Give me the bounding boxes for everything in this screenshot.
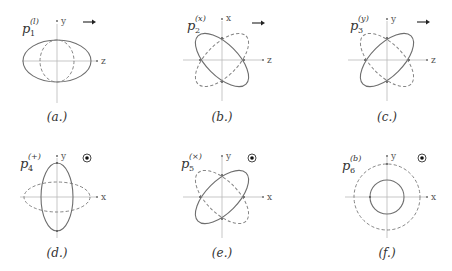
horizontal-axis-label: x <box>101 192 106 202</box>
mode-subscript: 3 <box>358 26 363 35</box>
axis-tip-icon <box>426 59 428 61</box>
panel-caption: (c.) <box>377 110 397 124</box>
crossing-point <box>199 59 201 61</box>
panel-caption: (d.) <box>47 246 68 260</box>
mode-superscript: (×) <box>189 152 202 161</box>
panel-caption: (e.) <box>212 246 233 260</box>
axis-tip-icon <box>426 196 428 198</box>
vertical-axis-label: y <box>60 16 67 26</box>
crossing-point <box>221 218 223 220</box>
mode-subscript: 5 <box>189 164 194 173</box>
mode-superscript: (+) <box>28 152 41 161</box>
axis-tip-icon <box>96 196 98 198</box>
mode-superscript: (x) <box>195 14 206 23</box>
arrow-right-icon <box>252 21 265 26</box>
out-of-page-icon <box>83 154 91 162</box>
panel-e: y x p 5 (×) (e.) <box>181 151 272 260</box>
crossing-point <box>243 59 245 61</box>
horizontal-axis-label: z <box>431 55 436 65</box>
crossing-point <box>199 196 201 198</box>
axis-tip-icon <box>221 155 223 157</box>
panel-a: y z p 1 (l) (a.) <box>22 16 106 124</box>
polarization-modes-figure: y z p 1 (l) (a.) x z p 2 (x) <box>0 0 452 271</box>
mode-subscript: 1 <box>30 29 35 38</box>
axis-tip-icon <box>96 60 98 62</box>
panel-f: y x p 6 (b) (f.) <box>342 151 436 260</box>
vertical-axis-label: y <box>390 151 397 161</box>
horizontal-axis-label: z <box>101 56 106 66</box>
axis-tip-icon <box>386 155 388 157</box>
crossing-point <box>386 81 388 83</box>
horizontal-axis-label: x <box>267 192 272 202</box>
vertical-axis-label: y <box>390 14 397 24</box>
horizontal-axis-label: x <box>431 192 436 202</box>
panel-caption: (f.) <box>378 246 396 260</box>
out-of-page-icon <box>248 154 256 162</box>
out-of-page-icon <box>418 154 426 162</box>
axis-tip-icon <box>262 59 264 61</box>
crossing-point <box>221 37 223 39</box>
crossing-point <box>243 196 245 198</box>
crossing-point <box>221 174 223 176</box>
arrow-right-icon <box>417 20 430 25</box>
mode-superscript: (l) <box>30 17 39 26</box>
vertical-axis-label: y <box>225 151 232 161</box>
crossing-point <box>364 59 366 61</box>
mode-superscript: (y) <box>358 14 369 23</box>
mode-subscript: 6 <box>350 166 355 175</box>
horizontal-axis-label: z <box>267 55 272 65</box>
crossing-point <box>408 59 410 61</box>
axis-tip-icon <box>56 20 58 22</box>
vertical-axis-label: x <box>226 13 231 23</box>
crossing-point <box>221 81 223 83</box>
vertical-axis-label: y <box>60 151 67 161</box>
axis-tip-icon <box>56 155 58 157</box>
panel-c: y z p 3 (y) (c.) <box>348 14 436 124</box>
panel-caption: (b.) <box>212 110 233 124</box>
crossing-point <box>369 196 371 198</box>
crossing-point <box>56 230 58 232</box>
crossing-point <box>386 37 388 39</box>
crossing-point <box>386 163 388 165</box>
panel-caption: (a.) <box>47 110 68 124</box>
panel-b: x z p 2 (x) (b.) <box>183 13 272 124</box>
mode-superscript: (b) <box>350 154 361 163</box>
panel-d: y x p 4 (+) (d.) <box>20 151 106 260</box>
axis-tip-icon <box>221 18 223 20</box>
mode-subscript: 4 <box>28 164 33 173</box>
arrow-right-icon <box>83 20 96 25</box>
mode-subscript: 2 <box>195 26 200 35</box>
axis-tip-icon <box>386 18 388 20</box>
axis-tip-icon <box>262 196 264 198</box>
crossing-point <box>56 162 58 164</box>
